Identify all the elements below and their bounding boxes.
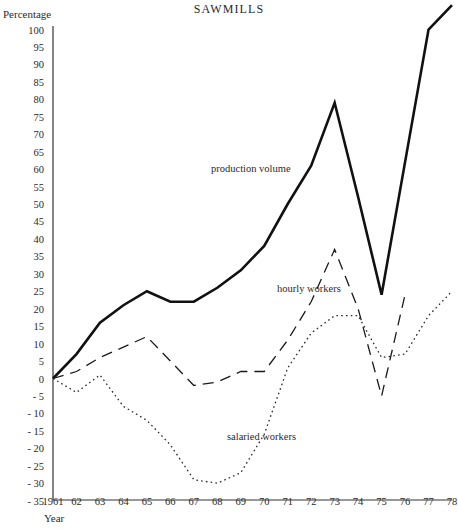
series-line-production-volume xyxy=(53,5,452,378)
plot-area xyxy=(0,0,458,529)
chart-container: SAWMILLS Percentage Year 100959085807570… xyxy=(0,0,458,529)
series-line-salaried-workers xyxy=(53,291,452,483)
series-line-hourly-workers xyxy=(53,249,405,396)
axis-lines xyxy=(53,26,452,500)
series-lines xyxy=(53,5,452,483)
